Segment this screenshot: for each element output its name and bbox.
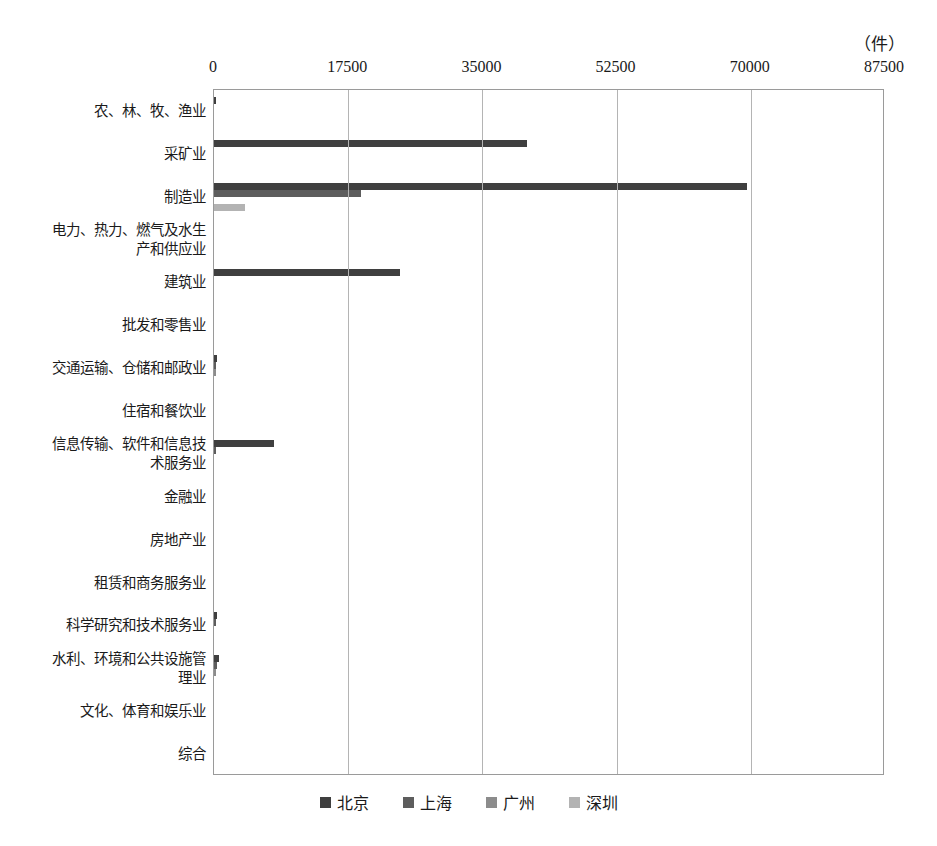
x-tick-label: 35000 <box>461 58 501 76</box>
category-label: 农、林、牧、渔业 <box>0 102 206 121</box>
bar-北京 <box>214 355 217 362</box>
x-tick-label: 17500 <box>327 58 367 76</box>
chart-row: 采矿业 <box>214 133 883 176</box>
bar-上海 <box>214 190 361 197</box>
legend-item-深圳[interactable]: 深圳 <box>569 790 618 814</box>
legend-label: 上海 <box>420 790 452 814</box>
category-label: 文化、体育和娱乐业 <box>0 702 206 721</box>
legend-label: 北京 <box>337 790 369 814</box>
category-label: 综合 <box>0 745 206 764</box>
bar-广州 <box>214 369 216 376</box>
row-bars <box>214 390 883 433</box>
legend-swatch-icon <box>569 797 580 808</box>
chart-row: 建筑业 <box>214 262 883 305</box>
x-tick-label: 70000 <box>730 58 770 76</box>
bar-北京 <box>214 269 400 276</box>
legend-item-广州[interactable]: 广州 <box>486 790 535 814</box>
bar-深圳 <box>214 204 245 211</box>
bar-北京 <box>214 655 219 662</box>
category-label: 电力、热力、燃气及水生 产和供应业 <box>0 221 206 259</box>
row-bars <box>214 133 883 176</box>
x-axis-tick-labels: 01750035000525007000087500 <box>0 58 937 80</box>
grid-line <box>348 90 349 774</box>
bar-北京 <box>214 97 216 104</box>
chart-row: 文化、体育和娱乐业 <box>214 690 883 733</box>
chart-row: 信息传输、软件和信息技 术服务业 <box>214 433 883 476</box>
row-bars <box>214 219 883 262</box>
category-label: 制造业 <box>0 188 206 207</box>
row-bars <box>214 176 883 219</box>
plot-area: 农、林、牧、渔业采矿业制造业电力、热力、燃气及水生 产和供应业建筑业批发和零售业… <box>213 89 884 775</box>
row-bars <box>214 733 883 776</box>
category-label: 批发和零售业 <box>0 316 206 335</box>
grid-line <box>482 90 483 774</box>
chart-row: 农、林、牧、渔业 <box>214 90 883 133</box>
axis-unit-label: （件） <box>854 30 905 55</box>
bar-北京 <box>214 612 217 619</box>
chart-row: 制造业 <box>214 176 883 219</box>
x-tick-label: 52500 <box>596 58 636 76</box>
chart-row: 批发和零售业 <box>214 304 883 347</box>
chart-row: 租赁和商务服务业 <box>214 562 883 605</box>
legend-label: 深圳 <box>586 790 618 814</box>
row-bars <box>214 647 883 690</box>
category-label: 信息传输、软件和信息技 术服务业 <box>0 435 206 473</box>
grid-line <box>751 90 752 774</box>
chart-row: 交通运输、仓储和邮政业 <box>214 347 883 390</box>
row-bars <box>214 90 883 133</box>
row-bars <box>214 562 883 605</box>
legend-item-北京[interactable]: 北京 <box>320 790 369 814</box>
category-label: 水利、环境和公共设施管 理业 <box>0 650 206 688</box>
row-bars <box>214 433 883 476</box>
bar-上海 <box>214 362 216 369</box>
chart-container: （件） 01750035000525007000087500 农、林、牧、渔业采… <box>0 0 937 846</box>
row-bars <box>214 690 883 733</box>
category-label: 金融业 <box>0 488 206 507</box>
chart-row: 综合 <box>214 733 883 776</box>
row-bars <box>214 304 883 347</box>
chart-row: 住宿和餐饮业 <box>214 390 883 433</box>
chart-row: 科学研究和技术服务业 <box>214 605 883 648</box>
bar-北京 <box>214 183 747 190</box>
bar-rows: 农、林、牧、渔业采矿业制造业电力、热力、燃气及水生 产和供应业建筑业批发和零售业… <box>214 90 883 774</box>
category-label: 房地产业 <box>0 531 206 550</box>
row-bars <box>214 519 883 562</box>
legend-label: 广州 <box>503 790 535 814</box>
legend-swatch-icon <box>320 797 331 808</box>
category-label: 住宿和餐饮业 <box>0 402 206 421</box>
chart-row: 房地产业 <box>214 519 883 562</box>
bar-广州 <box>214 669 216 676</box>
bar-北京 <box>214 140 527 147</box>
legend-swatch-icon <box>403 797 414 808</box>
legend-swatch-icon <box>486 797 497 808</box>
row-bars <box>214 605 883 648</box>
chart-row: 水利、环境和公共设施管 理业 <box>214 647 883 690</box>
bar-上海 <box>214 619 216 626</box>
chart-row: 金融业 <box>214 476 883 519</box>
grid-line <box>617 90 618 774</box>
x-tick-label: 87500 <box>864 58 904 76</box>
chart-row: 电力、热力、燃气及水生 产和供应业 <box>214 219 883 262</box>
x-tick-label: 0 <box>209 58 217 76</box>
row-bars <box>214 262 883 305</box>
bar-上海 <box>214 662 217 669</box>
bar-上海 <box>214 447 216 454</box>
legend-item-上海[interactable]: 上海 <box>403 790 452 814</box>
chart-legend: 北京上海广州深圳 <box>0 790 937 814</box>
category-label: 建筑业 <box>0 273 206 292</box>
category-label: 交通运输、仓储和邮政业 <box>0 359 206 378</box>
category-label: 科学研究和技术服务业 <box>0 616 206 635</box>
category-label: 租赁和商务服务业 <box>0 574 206 593</box>
row-bars <box>214 476 883 519</box>
category-label: 采矿业 <box>0 145 206 164</box>
row-bars <box>214 347 883 390</box>
bar-北京 <box>214 440 274 447</box>
